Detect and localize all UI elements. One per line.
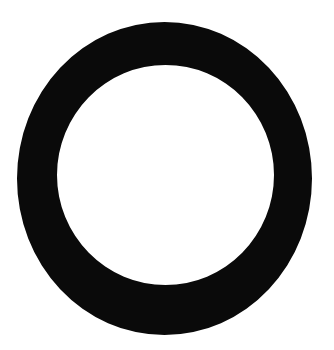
ring-graphic: [0, 0, 334, 350]
image-canvas: [0, 0, 334, 350]
